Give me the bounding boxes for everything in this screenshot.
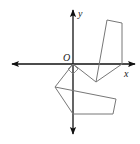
connector-right xyxy=(73,64,96,82)
x-axis-label: x xyxy=(123,68,129,79)
y-axis-label: y xyxy=(77,8,83,19)
connector-left xyxy=(55,64,73,87)
origin-label: O xyxy=(63,52,70,63)
upper-quadrilateral xyxy=(96,20,122,82)
coordinate-diagram: O x y xyxy=(0,0,140,144)
lower-quadrilateral xyxy=(55,87,116,114)
